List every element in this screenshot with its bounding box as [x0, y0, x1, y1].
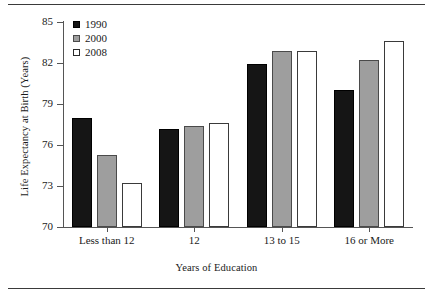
plot-area: 707376798285 Less than 121213 to 1516 or…: [63, 22, 413, 227]
y-axis-tick-label: 76: [42, 138, 53, 150]
legend-item-2000: 2000: [73, 32, 107, 45]
open-white-square-icon: [73, 49, 80, 56]
bar-2000-4: [359, 60, 379, 227]
x-axis-tick: [369, 227, 370, 232]
legend: 199020002008: [73, 18, 107, 60]
filled-black-square-icon: [73, 21, 80, 28]
x-axis-line: [63, 227, 413, 228]
bar-1990-2: [159, 129, 179, 227]
x-axis-tick: [107, 227, 108, 232]
figure: Life Expectancy at Birth (Years) Years o…: [0, 0, 433, 297]
top-divider-rule: [8, 4, 425, 5]
x-axis-tick-label: 16 or More: [345, 234, 395, 246]
x-axis-title: Years of Education: [0, 262, 433, 273]
bar-2000-1: [97, 155, 117, 227]
x-axis-tick: [194, 227, 195, 232]
filled-gray-square-icon: [73, 35, 80, 42]
legend-item-2008: 2008: [73, 46, 107, 59]
y-axis-tick: 85: [57, 22, 63, 23]
x-axis-tick: [282, 227, 283, 232]
bar-1990-4: [334, 90, 354, 227]
bar-2008-3: [297, 51, 317, 227]
y-axis-tick: 70: [57, 227, 63, 228]
y-axis-tick-label: 70: [42, 220, 53, 232]
x-axis-tick-label: Less than 12: [79, 234, 135, 246]
bar-1990-3: [247, 64, 267, 227]
bar-1990-1: [72, 118, 92, 227]
bar-2000-3: [272, 51, 292, 227]
bar-2008-4: [384, 41, 404, 227]
y-axis-tick-label: 79: [42, 97, 53, 109]
y-axis-tick: 82: [57, 63, 63, 64]
legend-item-label: 1990: [85, 19, 107, 30]
y-axis-title: Life Expectancy at Birth (Years): [19, 27, 30, 227]
y-axis-tick: 73: [57, 186, 63, 187]
x-axis-tick-label: 13 to 15: [264, 234, 300, 246]
x-axis-tick-label: 12: [189, 234, 200, 246]
bar-2008-2: [209, 123, 229, 227]
y-axis-tick: 76: [57, 145, 63, 146]
y-axis-tick-label: 73: [42, 179, 53, 191]
bar-2000-2: [184, 126, 204, 227]
y-axis-tick: 79: [57, 104, 63, 105]
bar-2008-1: [122, 183, 142, 227]
legend-item-label: 2000: [85, 33, 107, 44]
y-axis-tick-label: 85: [42, 15, 53, 27]
legend-item-1990: 1990: [73, 18, 107, 31]
y-axis-line: [63, 21, 64, 228]
y-axis-tick-label: 82: [42, 56, 53, 68]
bottom-divider-rule: [8, 288, 425, 289]
legend-item-label: 2008: [85, 47, 107, 58]
